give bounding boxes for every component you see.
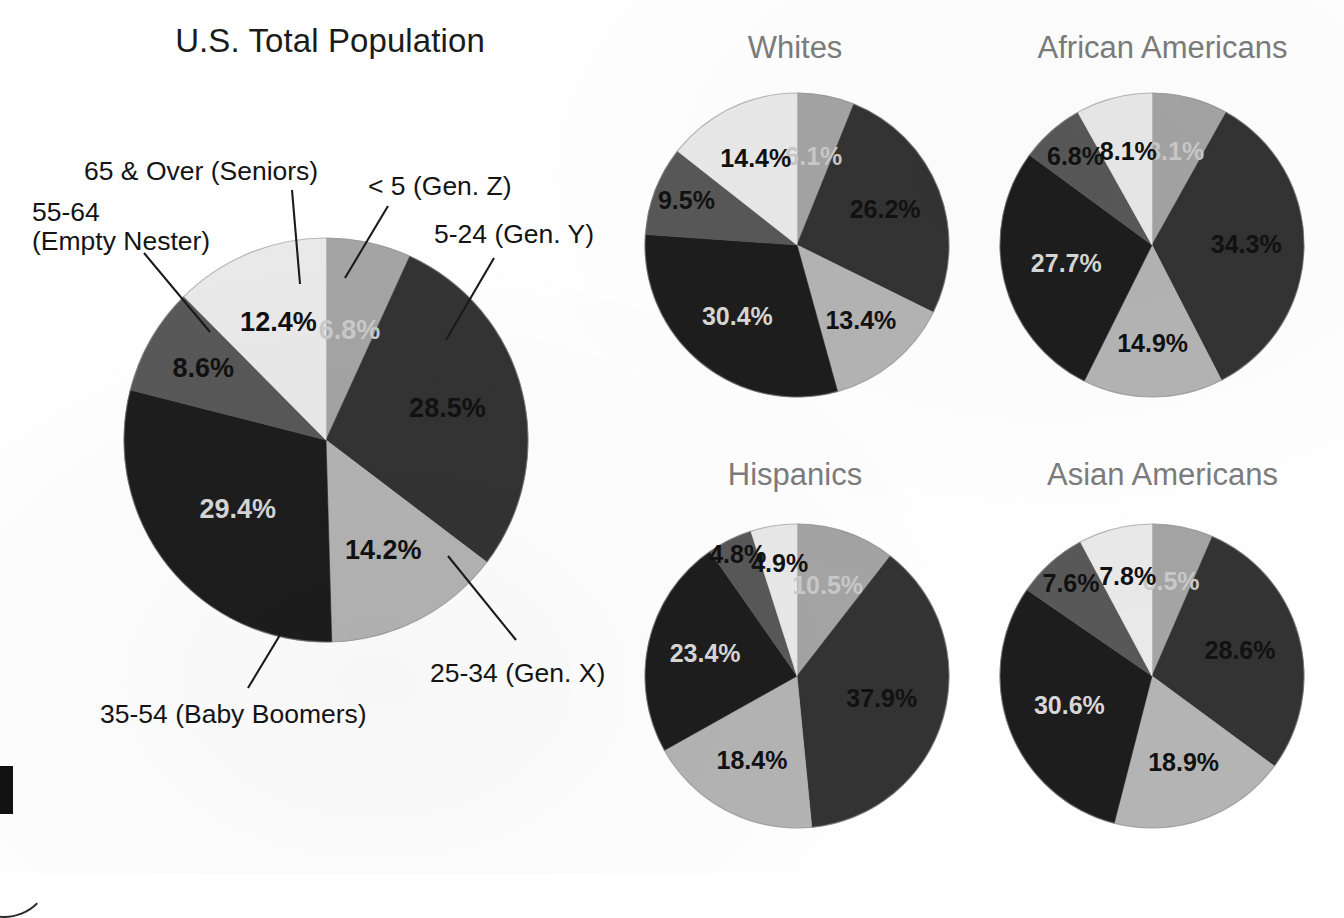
slice-percent-label: 14.4% [720, 144, 791, 172]
slice-percent-label: 34.3% [1211, 230, 1282, 258]
slice-percent-label: 9.5% [658, 186, 715, 214]
chart-title-whites: Whites [660, 30, 930, 66]
slice-percent-label: 7.8% [1099, 562, 1156, 590]
slice-percent-label: 23.4% [670, 639, 741, 667]
slice-percent-label: 13.4% [825, 306, 896, 334]
slice-percent-label: 7.6% [1043, 569, 1100, 597]
chart-title-hispanics: Hispanics [660, 457, 930, 493]
slice-percent-label: 37.9% [846, 684, 917, 712]
callout-seniors: 65 & Over (Seniors) [84, 157, 318, 186]
slice-percent-label: 27.7% [1031, 249, 1102, 277]
slice-percent-label: 4.9% [751, 549, 808, 577]
slice-percent-label: 6.8% [1047, 142, 1104, 170]
slice-percent-label: 28.5% [409, 393, 486, 423]
callout-gen-z: < 5 (Gen. Z) [368, 172, 512, 201]
callout-empty-nester-line1: 55-64 [32, 198, 210, 227]
slice-percent-label: 29.4% [199, 494, 276, 524]
slice-percent-label: 8.1% [1100, 137, 1157, 165]
slice-percent-label: 30.6% [1034, 691, 1105, 719]
pie-chart-african-americans: 8.1%34.3%14.9%27.7%6.8%8.1% [1000, 93, 1304, 397]
slice-percent-label: 6.8% [319, 315, 381, 345]
slice-percent-label: 14.9% [1117, 329, 1188, 357]
scan-artifact-bar [0, 766, 13, 814]
slice-percent-label: 8.6% [173, 353, 235, 383]
callout-empty-nester: 55-64 (Empty Nester) [32, 198, 210, 255]
pie-chart-whites: 6.1%26.2%13.4%30.4%9.5%14.4% [645, 93, 949, 397]
slice-percent-label: 14.2% [345, 535, 422, 565]
slice-percent-label: 28.6% [1205, 636, 1276, 664]
slice-percent-label: 12.4% [240, 307, 317, 337]
chart-title-asian-americans: Asian Americans [985, 457, 1340, 493]
slice-percent-label: 18.9% [1148, 748, 1219, 776]
slice-percent-label: 6.1% [785, 142, 842, 170]
callout-gen-x: 25-34 (Gen. X) [430, 659, 605, 688]
slice-percent-label: 18.4% [717, 746, 788, 774]
leader-baby-boomers [248, 630, 283, 688]
page-title: U.S. Total Population [150, 22, 510, 60]
slice-percent-label: 26.2% [850, 195, 921, 223]
chart-title-african-americans: African Americans [985, 30, 1340, 66]
slice-percent-label: 30.4% [702, 302, 773, 330]
callout-gen-y: 5-24 (Gen. Y) [434, 220, 594, 249]
callout-baby-boomers: 35-54 (Baby Boomers) [100, 700, 367, 729]
pie-chart-asian-americans: 6.5%28.6%18.9%30.6%7.6%7.8% [1000, 524, 1304, 828]
pie-chart-hispanics: 10.5%37.9%18.4%23.4%4.8%4.9% [645, 524, 949, 828]
callout-empty-nester-line2: (Empty Nester) [32, 227, 210, 256]
